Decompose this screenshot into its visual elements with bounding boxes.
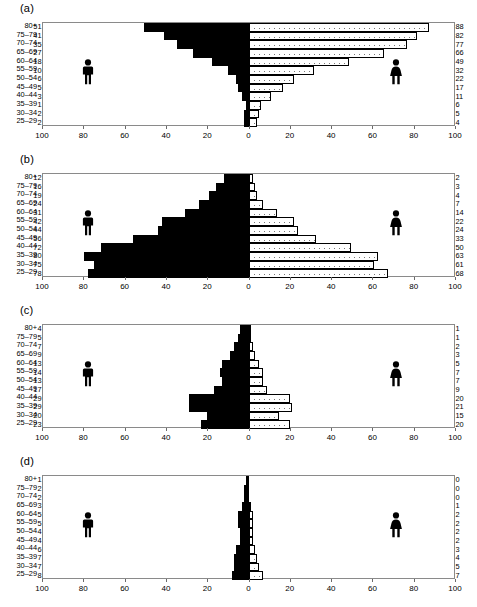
male-bar: 56	[133, 235, 248, 244]
x-axis-tick-label: 100	[35, 131, 48, 140]
x-axis-tick	[372, 428, 373, 431]
male-bar-value: 20	[33, 412, 41, 419]
plot-area: 518841823577276618491032622517311162524	[42, 22, 455, 126]
female-half: 2	[249, 528, 455, 537]
x-axis-tick-label: 20	[285, 131, 294, 140]
female-half: 1	[249, 502, 455, 511]
x-axis-tick-label: 40	[161, 131, 170, 140]
female-half: 2	[249, 519, 455, 528]
x-axis-tick	[372, 126, 373, 129]
x-axis-tick-label: 20	[203, 584, 212, 593]
male-half: 7	[43, 554, 249, 563]
female-half: 61	[249, 261, 455, 270]
female-half: 49	[249, 58, 455, 67]
male-bar-value: 7	[37, 343, 41, 350]
x-axis-tick-label: 80	[79, 584, 88, 593]
female-bar-value: 3	[456, 183, 460, 190]
male-bar: 72	[101, 243, 249, 252]
male-bar-value: 13	[33, 360, 41, 367]
female-bar: 32	[249, 66, 315, 75]
pyramid-row: 16	[43, 101, 454, 110]
male-bar: 9	[230, 351, 248, 360]
male-bar-value: 4	[37, 529, 41, 536]
x-axis-tick-label: 80	[409, 131, 418, 140]
male-half: 5	[43, 84, 249, 93]
female-bar-value: 49	[456, 58, 464, 65]
male-half: 5	[43, 519, 249, 528]
female-bar-value: 82	[456, 32, 464, 39]
x-axis-tick-label: 0	[246, 282, 250, 291]
x-axis-tick	[414, 126, 415, 129]
female-bar-value: 63	[456, 253, 464, 260]
female-half: 4	[249, 554, 455, 563]
x-axis-tick-label: 0	[246, 433, 250, 442]
x-axis-tick	[331, 126, 332, 129]
female-bar: 24	[249, 226, 298, 235]
male-half: 51	[43, 23, 249, 32]
female-bar: 4	[249, 554, 257, 563]
pyramid-row: 163	[43, 183, 454, 192]
x-axis-tick	[249, 579, 250, 582]
x-axis-tick-label: 20	[285, 433, 294, 442]
x-axis-tick-label: 0	[246, 131, 250, 140]
male-figure-icon	[81, 361, 95, 387]
x-axis-tick	[331, 277, 332, 280]
male-bar-value: 5	[37, 334, 41, 341]
male-bar-value: 5	[37, 84, 41, 91]
female-half: 11	[249, 92, 455, 101]
female-half: 5	[249, 360, 455, 369]
male-bar-value: 6	[37, 546, 41, 553]
x-axis-tick-label: 20	[285, 282, 294, 291]
male-bar-value: 3	[37, 503, 41, 510]
female-bar-value: 2	[456, 175, 460, 182]
male-half: 72	[43, 243, 249, 252]
female-bar: 5	[249, 563, 259, 572]
female-bar: 1	[249, 502, 251, 511]
male-bar-value: 31	[33, 209, 41, 216]
female-bar-value: 7	[456, 369, 460, 376]
female-bar: 2	[249, 342, 253, 351]
female-bar: 15	[249, 412, 280, 421]
pyramid-row: 74	[43, 554, 454, 563]
x-axis-tick-label: 80	[79, 131, 88, 140]
male-bar: 5	[238, 84, 248, 93]
x-axis-tick-label: 60	[120, 433, 129, 442]
panel-label: (c)	[20, 304, 33, 316]
female-bar: 82	[249, 32, 418, 41]
x-axis-tick	[290, 579, 291, 582]
male-bar: 16	[216, 183, 249, 192]
pyramid-row: 20	[43, 493, 454, 502]
female-half: 17	[249, 84, 455, 93]
female-bar: 7	[249, 368, 263, 377]
male-bar: 5	[238, 519, 248, 528]
x-axis-tick	[290, 277, 291, 280]
male-bar-value: 10	[33, 67, 41, 74]
y-axis-labels: 80+75–7970–7465–6960–6455–5950–5445–4940…	[0, 475, 40, 579]
male-bar-value: 4	[37, 326, 41, 333]
x-axis-tick-label: 20	[203, 433, 212, 442]
male-half: 75	[43, 261, 249, 270]
female-half: 9	[249, 386, 455, 395]
male-bar: 18	[212, 58, 249, 67]
male-half: 18	[43, 58, 249, 67]
male-bar-value: 51	[33, 24, 41, 31]
male-bar-value: 1	[37, 102, 41, 109]
female-bar-value: 88	[456, 24, 464, 31]
female-half: 7	[249, 368, 455, 377]
pyramid-row: 7250	[43, 243, 454, 252]
male-half: 35	[43, 40, 249, 49]
x-axis-tick-label: 40	[161, 584, 170, 593]
x-axis: 10080604020020406080100	[42, 579, 455, 599]
male-half: 29	[43, 403, 249, 412]
male-bar-value: 7	[37, 555, 41, 562]
female-bar-value: 11	[456, 93, 464, 100]
female-bar-value: 1	[456, 326, 460, 333]
x-axis-tick-label: 80	[79, 433, 88, 442]
male-bar-value: 7	[37, 563, 41, 570]
male-half: 5	[43, 334, 249, 343]
x-axis-tick	[249, 277, 250, 280]
pyramid-row: 2920	[43, 394, 454, 403]
x-axis-tick-label: 80	[79, 282, 88, 291]
x-axis-tick	[331, 579, 332, 582]
female-bar-value: 5	[456, 360, 460, 367]
